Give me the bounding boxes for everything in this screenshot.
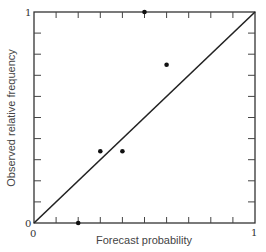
x-axis-label: Forecast probability [96, 234, 192, 246]
data-point [142, 10, 147, 15]
data-point [98, 149, 103, 154]
y-max-label: 1 [25, 7, 31, 18]
reliability-diagram: 1 0 0 1 Forecast probability Observed re… [0, 0, 266, 252]
data-point [164, 62, 169, 67]
data-point [76, 221, 81, 226]
x-max-label: 1 [251, 227, 257, 238]
diagonal-reference-line [34, 12, 255, 223]
data-point [120, 149, 125, 154]
x-min-label: 0 [30, 228, 36, 239]
data-points [76, 10, 169, 226]
y-axis-label: Observed relative frequency [5, 49, 17, 187]
